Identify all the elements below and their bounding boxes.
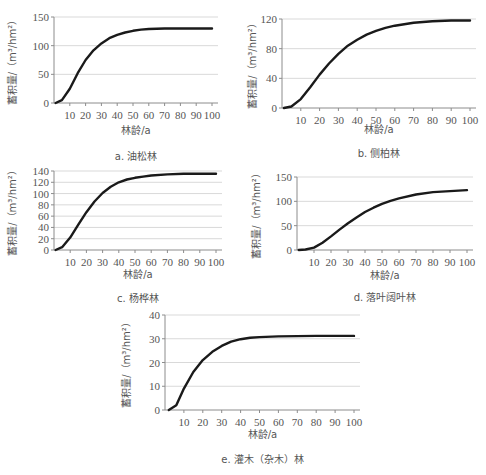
y-tick-label: 120 (261, 13, 278, 25)
x-tick-label: 90 (446, 114, 458, 126)
y-tick-label: 10 (149, 380, 161, 392)
chart-panel-d: 050100150102030405060708090100林龄/a蓄积量/（m… (251, 168, 476, 303)
x-tick-label: 50 (128, 109, 140, 121)
x-tick-label: 50 (377, 256, 389, 268)
y-tick-label: 120 (33, 176, 50, 188)
x-tick-label: 70 (411, 256, 423, 268)
x-tick-label: 30 (333, 114, 345, 126)
x-tick-label: 20 (326, 256, 338, 268)
x-tick-label: 30 (343, 256, 355, 268)
x-tick-label: 80 (428, 256, 440, 268)
growth-curve (56, 29, 212, 104)
x-axis-title: 林龄/a (123, 268, 153, 280)
x-tick-label: 70 (408, 114, 420, 126)
x-tick-label: 70 (162, 256, 174, 268)
x-tick-label: 90 (191, 109, 203, 121)
x-tick-label: 90 (330, 416, 342, 428)
x-tick-label: 90 (445, 256, 457, 268)
y-axis-title: 蓄积量/（m³/hm²） (7, 15, 18, 106)
y-tick-label: 0 (44, 97, 50, 109)
x-tick-label: 20 (314, 114, 326, 126)
x-tick-label: 80 (178, 256, 190, 268)
growth-curve (169, 336, 354, 410)
x-tick-label: 100 (459, 256, 476, 268)
x-axis-title: 林龄/a (248, 428, 278, 440)
y-tick-label: 140 (33, 165, 50, 177)
chart-panel-b: 04080120102030405060708090100林龄/a蓄积量/（m³… (247, 13, 479, 159)
x-tick-label: 40 (235, 416, 247, 428)
x-tick-label: 40 (112, 109, 124, 121)
x-tick-label: 40 (113, 256, 125, 268)
y-tick-label: 0 (272, 102, 278, 114)
x-tick-label: 20 (81, 256, 93, 268)
growth-curve (299, 190, 467, 250)
x-tick-label: 20 (197, 416, 209, 428)
y-tick-label: 50 (38, 68, 50, 80)
x-tick-label: 100 (462, 114, 479, 126)
x-tick-label: 40 (360, 256, 372, 268)
y-tick-label: 0 (287, 244, 293, 256)
x-tick-label: 50 (130, 256, 142, 268)
x-tick-label: 80 (175, 109, 187, 121)
x-tick-label: 100 (346, 416, 363, 428)
y-tick-label: 150 (276, 171, 293, 183)
y-tick-label: 50 (281, 220, 293, 232)
y-tick-label: 0 (44, 244, 50, 256)
y-tick-label: 80 (266, 43, 278, 55)
x-tick-label: 10 (295, 114, 307, 126)
y-tick-label: 40 (149, 309, 161, 321)
x-tick-label: 10 (178, 416, 190, 428)
y-tick-label: 40 (38, 221, 50, 233)
x-tick-label: 30 (216, 416, 228, 428)
panel-caption: b. 侧柏林 (358, 147, 401, 159)
x-tick-label: 60 (143, 109, 155, 121)
y-axis-title: 蓄积量/（m³/hm²） (7, 165, 18, 256)
x-tick-label: 10 (64, 109, 76, 121)
chart-panel-c: 020406080100120140102030405060708090100林… (7, 165, 225, 304)
chart-panel-e: 010203040102030405060708090100林龄/a蓄积量/（m… (121, 309, 363, 465)
y-tick-label: 40 (266, 72, 278, 84)
x-tick-label: 100 (208, 256, 225, 268)
x-tick-label: 30 (96, 109, 108, 121)
y-tick-label: 150 (33, 11, 50, 23)
x-tick-label: 80 (427, 114, 439, 126)
x-tick-label: 20 (80, 109, 92, 121)
x-tick-label: 40 (352, 114, 364, 126)
panel-caption: a. 油松林 (115, 150, 158, 162)
figure: 050100150102030405060708090100林龄/a蓄积量/（m… (0, 0, 486, 475)
y-tick-label: 20 (149, 357, 161, 369)
panel-caption: c. 杨桦林 (117, 292, 159, 304)
x-tick-label: 100 (204, 109, 221, 121)
y-tick-label: 30 (149, 333, 161, 345)
chart-panel-a: 050100150102030405060708090100林龄/a蓄积量/（m… (7, 11, 221, 162)
x-axis-title: 林龄/a (364, 123, 394, 135)
x-tick-label: 60 (146, 256, 158, 268)
x-tick-label: 10 (309, 256, 321, 268)
x-tick-label: 70 (292, 416, 304, 428)
growth-curve (284, 21, 470, 109)
x-tick-label: 70 (159, 109, 171, 121)
panel-caption: d. 落叶阔叶林 (354, 291, 417, 303)
panel-caption: e. 灌木（杂木）林 (221, 453, 304, 465)
chart-canvas: 050100150102030405060708090100林龄/a蓄积量/（m… (0, 0, 486, 475)
x-tick-label: 30 (97, 256, 109, 268)
y-tick-label: 100 (33, 40, 50, 52)
x-axis-title: 林龄/a (121, 124, 151, 136)
y-axis-title: 蓄积量/（m³/hm²） (251, 168, 262, 259)
y-tick-label: 20 (38, 233, 50, 245)
y-tick-label: 80 (38, 199, 50, 211)
y-axis-title: 蓄积量/（m³/hm²） (247, 18, 258, 109)
x-axis-title: 林龄/a (370, 269, 400, 281)
x-tick-label: 60 (273, 416, 285, 428)
x-tick-label: 60 (394, 256, 406, 268)
y-tick-label: 60 (38, 210, 50, 222)
y-tick-label: 100 (276, 195, 293, 207)
y-axis-title: 蓄积量/（m³/hm²） (121, 317, 132, 408)
x-tick-label: 80 (311, 416, 323, 428)
x-tick-label: 50 (254, 416, 266, 428)
x-tick-label: 90 (194, 256, 206, 268)
y-tick-label: 100 (33, 188, 50, 200)
y-tick-label: 0 (155, 404, 161, 416)
x-tick-label: 10 (65, 256, 77, 268)
